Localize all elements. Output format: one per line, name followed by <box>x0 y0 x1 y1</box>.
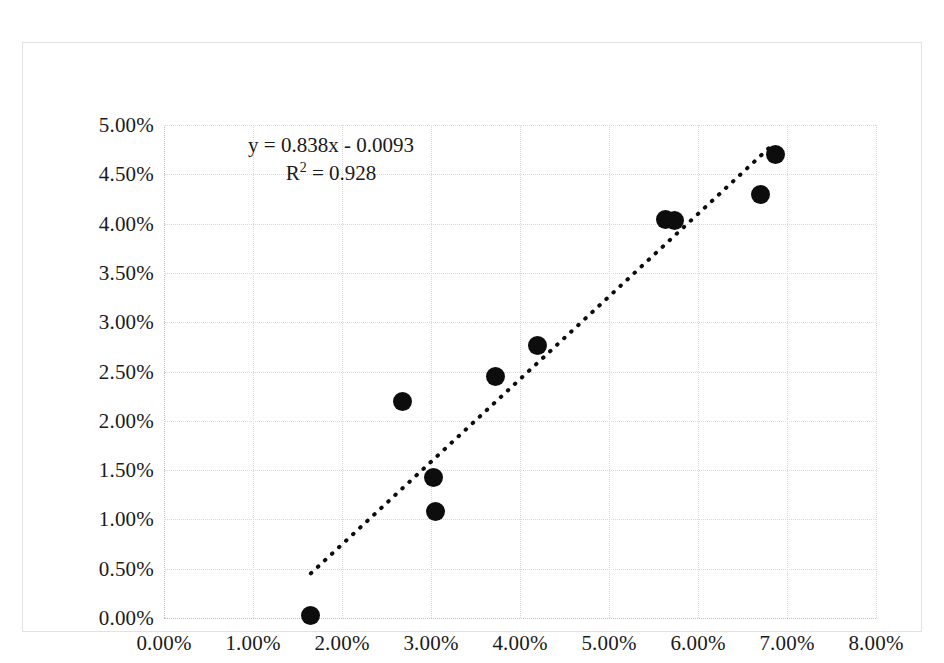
x-axis-tick-labels: 0.00%1.00%2.00%3.00%4.00%5.00%6.00%7.00%… <box>164 631 876 663</box>
gridline-horizontal <box>164 618 876 619</box>
x-axis-tick-label: 6.00% <box>670 631 725 656</box>
x-axis-tick-label: 0.00% <box>136 631 191 656</box>
x-axis-tick-label: 3.00% <box>403 631 458 656</box>
y-axis-tick-label: 4.00% <box>99 211 154 236</box>
r-squared-symbol: R <box>286 161 300 185</box>
data-point <box>751 185 770 204</box>
y-axis-tick-label: 1.00% <box>99 507 154 532</box>
chart-frame: 0.00%0.50%1.00%1.50%2.00%2.50%3.00%3.50%… <box>22 42 922 632</box>
data-point <box>426 502 445 521</box>
y-axis-tick-label: 5.00% <box>99 113 154 138</box>
y-axis-tick-label: 0.50% <box>99 556 154 581</box>
x-axis-tick-label: 8.00% <box>848 631 903 656</box>
data-point <box>393 392 412 411</box>
x-axis-tick-label: 4.00% <box>492 631 547 656</box>
plot-area <box>164 125 876 618</box>
data-point <box>301 606 320 625</box>
x-axis-tick-label: 2.00% <box>314 631 369 656</box>
x-axis-tick-label: 5.00% <box>581 631 636 656</box>
data-point <box>486 367 505 386</box>
x-axis-tick-label: 7.00% <box>759 631 814 656</box>
y-axis-tick-label: 4.50% <box>99 162 154 187</box>
r-squared-value: = 0.928 <box>307 161 377 185</box>
gridline-vertical <box>876 125 877 618</box>
y-axis-tick-label: 3.00% <box>99 310 154 335</box>
data-point <box>424 468 443 487</box>
y-axis-tick-label: 2.50% <box>99 359 154 384</box>
trendline <box>164 125 876 618</box>
x-axis-tick-label: 1.00% <box>225 631 280 656</box>
data-point <box>766 145 785 164</box>
y-axis-tick-labels: 0.00%0.50%1.00%1.50%2.00%2.50%3.00%3.50%… <box>23 125 154 618</box>
y-axis-tick-label: 2.00% <box>99 408 154 433</box>
regression-annotation: y = 0.838x - 0.0093 R2 = 0.928 <box>186 131 476 188</box>
r-squared-exponent: 2 <box>300 160 307 175</box>
y-axis-tick-label: 3.50% <box>99 260 154 285</box>
y-axis-tick-label: 0.00% <box>99 606 154 631</box>
r-squared-line: R2 = 0.928 <box>186 159 476 187</box>
regression-equation: y = 0.838x - 0.0093 <box>186 131 476 159</box>
y-axis-tick-label: 1.50% <box>99 458 154 483</box>
